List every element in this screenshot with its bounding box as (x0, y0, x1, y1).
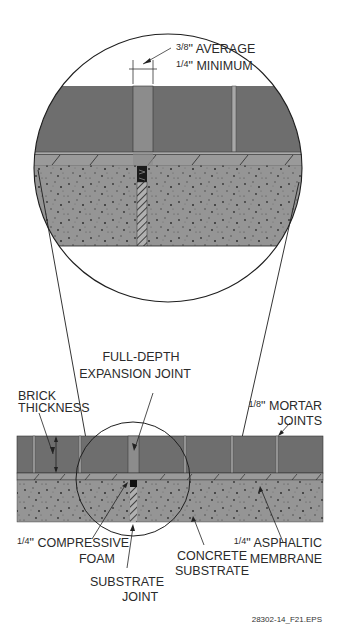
detail-asphaltic-membrane (30, 155, 320, 166)
label-substrate-joint-1: SUBSTRATE (90, 575, 164, 589)
section-compressive-foam (130, 480, 137, 487)
detail-substrate-joint (137, 182, 147, 252)
label-mortar: 1/8" MORTAR (249, 399, 322, 413)
dimension-arrow-icon (143, 58, 151, 64)
detail-concrete-substrate (30, 166, 320, 251)
label-expansion-joint: EXPANSION JOINT (79, 367, 191, 381)
label-full-depth: FULL-DEPTH (102, 350, 179, 364)
detail-view: 3/8" AVERAGE 1/4" MINIMUM (30, 34, 320, 302)
detail-mortar-joint (232, 86, 236, 152)
figure-id-label: 28302-14_F21.EPS (252, 615, 322, 624)
label-substrate: SUBSTRATE (175, 564, 249, 578)
label-membrane: MEMBRANE (250, 552, 322, 566)
detail-compressive-foam (137, 166, 147, 182)
section-substrate-joint (130, 487, 137, 522)
label-thickness: THICKNESS (18, 401, 90, 415)
dimension-marker (129, 48, 171, 84)
detail-expansion-joint (133, 86, 153, 152)
label-foam: FOAM (79, 552, 115, 566)
expansion-joint-diagram: 3/8" AVERAGE 1/4" MINIMUM (0, 0, 338, 626)
label-joints: JOINTS (278, 414, 322, 428)
dimension-minimum-label: 1/4" MINIMUM (176, 59, 253, 73)
label-compressive: 1/4" COMPRESSIVE (17, 536, 129, 550)
detail-mortar-joint (314, 86, 318, 152)
section-view: FULL-DEPTH EXPANSION JOINT BRICK THICKNE… (17, 350, 323, 604)
section-concrete-substrate (17, 480, 323, 522)
label-asphaltic: 1/4" ASPHALTIC (234, 536, 322, 550)
dimension-average-label: 3/8" AVERAGE (176, 42, 255, 56)
label-concrete: CONCRETE (177, 549, 247, 563)
detail-brick-course (30, 86, 320, 152)
label-substrate-joint-2: JOINT (122, 590, 158, 604)
